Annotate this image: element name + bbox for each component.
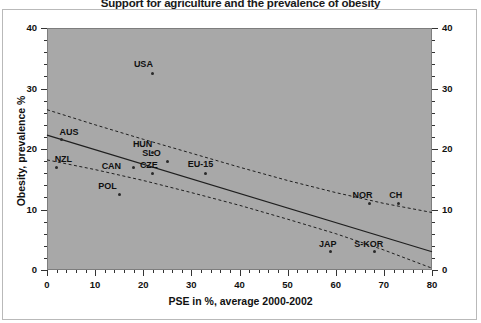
x-tick xyxy=(211,270,212,273)
x-tick xyxy=(201,270,202,273)
data-point-label: AUS xyxy=(59,127,78,137)
y-tick-left xyxy=(44,185,47,186)
x-tick xyxy=(268,270,269,273)
y-tick-left xyxy=(44,173,47,174)
x-tick xyxy=(326,270,327,273)
x-tick xyxy=(230,270,231,273)
x-tick xyxy=(355,270,356,273)
y-tick-left xyxy=(44,76,47,77)
y-tick-label-left: 40 xyxy=(11,22,37,33)
data-point-label: NZL xyxy=(55,154,73,164)
data-point-label: JAP xyxy=(319,239,337,249)
x-tick xyxy=(124,270,125,273)
y-tick-left xyxy=(41,149,47,150)
x-tick xyxy=(297,270,298,273)
x-tick xyxy=(259,270,260,273)
y-tick-right xyxy=(432,222,435,223)
x-tick xyxy=(172,270,173,273)
x-tick xyxy=(336,270,337,276)
x-tick-label: 80 xyxy=(417,279,447,290)
x-tick xyxy=(432,270,433,276)
x-tick xyxy=(278,270,279,273)
data-point-label: NOR xyxy=(352,190,372,200)
y-tick-left xyxy=(44,197,47,198)
y-tick-label-right: 40 xyxy=(442,22,468,33)
x-tick xyxy=(403,270,404,273)
data-point-marker xyxy=(118,193,121,196)
y-tick-left xyxy=(44,101,47,102)
x-tick xyxy=(57,270,58,273)
y-tick-right xyxy=(432,113,435,114)
x-tick xyxy=(220,270,221,273)
data-point-marker xyxy=(55,166,58,169)
data-point-label: S-KOR xyxy=(354,239,383,249)
y-tick-left xyxy=(44,222,47,223)
y-tick-right xyxy=(432,185,435,186)
x-tick xyxy=(307,270,308,273)
y-tick-left xyxy=(41,210,47,211)
y-tick-left xyxy=(41,28,47,29)
chart-title: Support for agriculture and the prevalen… xyxy=(0,0,481,9)
data-point-label: POL xyxy=(98,181,117,191)
y-tick-right xyxy=(432,89,438,90)
y-tick-right xyxy=(432,64,435,65)
x-tick xyxy=(105,270,106,273)
y-tick-right xyxy=(432,173,435,174)
y-tick-left xyxy=(44,64,47,65)
y-tick-left xyxy=(41,89,47,90)
x-tick xyxy=(95,270,96,276)
data-point-label: CAN xyxy=(102,161,122,171)
y-tick-right xyxy=(432,137,435,138)
data-point-marker xyxy=(132,166,135,169)
chart-container: Support for agriculture and the prevalen… xyxy=(0,0,481,323)
y-tick-label-right: 30 xyxy=(442,83,468,94)
y-tick-right xyxy=(432,197,435,198)
x-tick xyxy=(86,270,87,273)
y-tick-right xyxy=(432,40,435,41)
data-point-marker xyxy=(166,160,169,163)
x-tick xyxy=(143,270,144,276)
y-tick-right xyxy=(432,76,435,77)
x-axis-title: PSE in %, average 2000-2002 xyxy=(0,295,481,307)
y-tick-label-left: 0 xyxy=(11,264,37,275)
data-point-label: CH xyxy=(389,190,402,200)
x-tick xyxy=(422,270,423,273)
y-tick-left xyxy=(44,258,47,259)
x-tick xyxy=(66,270,67,273)
data-point-marker xyxy=(368,202,371,205)
x-tick-label: 20 xyxy=(128,279,158,290)
x-tick xyxy=(374,270,375,273)
x-tick xyxy=(288,270,289,276)
x-tick xyxy=(365,270,366,273)
y-tick-left xyxy=(44,137,47,138)
data-point-label: CZE xyxy=(140,160,158,170)
y-tick-right xyxy=(432,234,435,235)
x-tick xyxy=(249,270,250,273)
y-tick-right xyxy=(432,125,435,126)
x-tick-label: 10 xyxy=(80,279,110,290)
data-point-marker xyxy=(397,202,400,205)
y-tick-left xyxy=(44,52,47,53)
y-tick-left xyxy=(44,113,47,114)
y-tick-label-left: 20 xyxy=(11,143,37,154)
plot-area xyxy=(47,28,432,270)
y-tick-left xyxy=(44,40,47,41)
x-tick xyxy=(394,270,395,273)
x-tick-label: 50 xyxy=(273,279,303,290)
x-tick-label: 70 xyxy=(369,279,399,290)
y-tick-right xyxy=(432,210,438,211)
x-tick-label: 60 xyxy=(321,279,351,290)
data-point-label: EU-15 xyxy=(188,159,214,169)
x-tick xyxy=(413,270,414,273)
y-tick-left xyxy=(44,161,47,162)
y-tick-label-right: 0 xyxy=(442,264,468,275)
x-tick xyxy=(317,270,318,273)
x-tick xyxy=(134,270,135,273)
y-tick-label-right: 20 xyxy=(442,143,468,154)
x-tick-label: 30 xyxy=(176,279,206,290)
y-tick-label-left: 10 xyxy=(11,204,37,215)
x-tick-label: 0 xyxy=(32,279,62,290)
x-tick xyxy=(345,270,346,273)
y-tick-right xyxy=(432,258,435,259)
y-tick-left xyxy=(44,234,47,235)
